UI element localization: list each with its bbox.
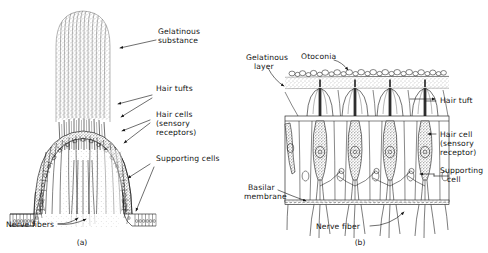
label-hair-tufts: Hair tufts bbox=[156, 84, 193, 93]
label-hair-cell-line1: Hair cell bbox=[440, 130, 472, 139]
label-hair-tuft: Hair tuft bbox=[440, 96, 473, 105]
label-hair-cell-line3: receptor) bbox=[440, 148, 476, 157]
label-gelatinous-layer-line2: layer bbox=[254, 62, 275, 71]
label-supporting-cells: Supporting cells bbox=[156, 154, 220, 163]
figure-vestibular-receptors: Gelatinous substance Hair tufts Hair cel… bbox=[0, 0, 488, 253]
label-nerve-fiber: Nerve fiber bbox=[316, 222, 361, 231]
label-gelatinous-substance-line2: substance bbox=[158, 36, 198, 45]
label-gelatinous-substance-line1: Gelatinous bbox=[158, 27, 200, 36]
label-hair-cells-line1: Hair cells bbox=[156, 110, 193, 119]
label-otoconia: Otoconia bbox=[301, 52, 336, 61]
basilar-membrane bbox=[285, 200, 449, 205]
label-basilar-membrane-line2: membrane bbox=[244, 192, 287, 201]
caption-panel-b: (b) bbox=[355, 238, 366, 247]
label-basilar-membrane-line1: Basilar bbox=[248, 183, 276, 192]
label-supporting-cell-line2: cell bbox=[447, 175, 461, 184]
label-hair-cells-line2: (sensory bbox=[156, 119, 190, 128]
label-hair-cells-line3: receptors) bbox=[156, 128, 196, 137]
label-supporting-cell-line1: Supporting bbox=[440, 166, 483, 175]
label-nerve-fibers: Nerve fibers bbox=[6, 220, 54, 229]
label-hair-cell-line2: (sensory bbox=[440, 139, 474, 148]
cupula-gelatinous-substance bbox=[56, 11, 110, 122]
sensory-epithelium-b bbox=[285, 116, 449, 202]
label-gelatinous-layer-line1: Gelatinous bbox=[246, 53, 288, 62]
gelatinous-layer-b bbox=[285, 77, 449, 88]
caption-panel-a: (a) bbox=[77, 238, 88, 247]
